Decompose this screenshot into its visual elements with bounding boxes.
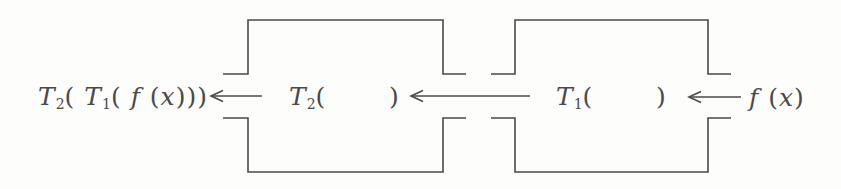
output-expression: T2( T1( f (x))) bbox=[38, 82, 208, 111]
input-expression: f (x) bbox=[749, 83, 805, 112]
machine2-box-top-outline bbox=[491, 20, 731, 74]
machine1-label: T2( ) bbox=[289, 82, 400, 111]
machine1-box-top-outline bbox=[223, 20, 466, 74]
machine2-box-bottom-outline bbox=[491, 118, 731, 172]
machine2-label: T1( ) bbox=[556, 82, 667, 111]
function-machine-diagram: T2( T1( f (x))) T2( ) T1( ) f (x) bbox=[0, 0, 841, 189]
machine1-box-bottom-outline bbox=[223, 118, 466, 172]
